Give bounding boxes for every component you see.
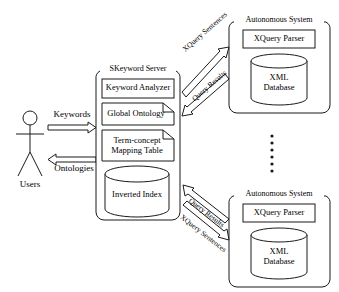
component-term-concept-line2: Mapping Table — [102, 146, 172, 155]
component-xml-database-top-line2: Database — [251, 83, 307, 92]
component-xml-database-bottom-line1: XML — [251, 247, 307, 256]
flow-keywords-arrow — [48, 122, 96, 133]
skeyword-server-title: SKeyword Server — [100, 65, 176, 73]
flow-keywords-label: Keywords — [44, 110, 100, 119]
component-xquery-parser-top-label: XQuery Parser — [243, 34, 315, 43]
autonomous-system-top-title: Autonomous System — [234, 16, 324, 24]
component-inverted-index-label: Inverted Index — [104, 190, 170, 199]
component-term-concept-line1: Term-concept — [102, 136, 172, 145]
autonomous-system-bottom-title: Autonomous System — [234, 190, 324, 198]
component-xquery-parser-bottom-label: XQuery Parser — [243, 208, 315, 217]
component-xml-database-top-line1: XML — [251, 73, 307, 82]
flow-ontologies-label: Ontologies — [44, 164, 104, 173]
component-global-ontology-label: Global Ontology — [102, 109, 170, 118]
component-xml-database-bottom-line2: Database — [251, 257, 307, 266]
actor-users-icon — [16, 111, 44, 176]
actor-label: Users — [10, 180, 50, 189]
component-keyword-analyzer-label: Keyword Analyzer — [102, 83, 174, 92]
architecture-diagram: .s{fill:none;stroke:#1a1a1a;stroke-width… — [0, 0, 339, 292]
vertical-ellipsis-icon — [270, 134, 273, 172]
